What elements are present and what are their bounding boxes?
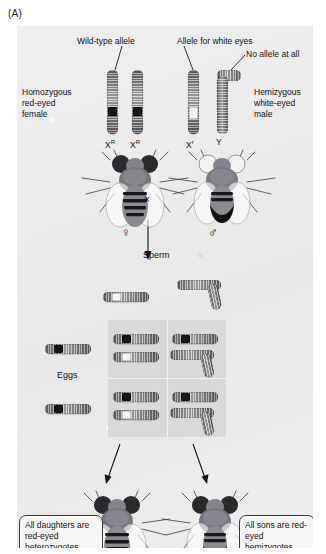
sperm-gamete-y <box>177 280 223 306</box>
genotype-paternal-y: Y <box>216 137 222 148</box>
genotype-superscript: R <box>136 139 140 145</box>
offspring-chromosome-x-white <box>113 410 159 420</box>
wild-type-allele-label: Wild-type allele <box>77 36 135 47</box>
allele-marker-dominant <box>54 345 63 353</box>
offspring-arrows <box>105 444 209 484</box>
allele-marker-dominant <box>122 335 131 343</box>
figure-panel: Wild-type allele Allele for white eyes N… <box>17 26 313 548</box>
maternal-x-chromosome-1 <box>107 70 118 134</box>
genotype-superscript: R <box>111 139 115 145</box>
egg-gamete-x-red-2 <box>45 404 91 414</box>
white-eye-allele-label: Allele for white eyes <box>177 36 253 47</box>
allele-marker-recessive <box>189 107 198 119</box>
eggs-header-label: Eggs <box>57 370 78 380</box>
allele-marker-dominant <box>181 335 190 343</box>
offspring-chromosome-x-red <box>172 392 218 402</box>
genotype-superscript: r <box>192 139 194 145</box>
offspring-chromosome-x-red <box>113 392 159 402</box>
male-parent-label-line2: white-eyed <box>254 98 295 109</box>
genotype-paternal-x: Xr <box>186 137 194 150</box>
sperm-gamete-x-white <box>103 292 149 302</box>
offspring-chromosome-x-red <box>172 334 218 344</box>
panel-label: (A) <box>8 8 22 19</box>
allele-marker-recessive <box>112 293 121 301</box>
female-sex-symbol: ♀ <box>121 226 131 239</box>
daughters-callout: All daughters are red-eyed heterozygotes… <box>19 515 103 548</box>
male-parent-fly <box>167 150 277 228</box>
female-parent-label-line1: Homozygous <box>22 87 72 98</box>
allele-marker-recessive <box>122 411 131 419</box>
offspring-chromosome-x-red <box>113 334 159 344</box>
allele-marker-dominant <box>54 405 63 413</box>
no-allele-label: No allele at all <box>246 49 299 60</box>
allele-marker-dominant <box>133 107 142 116</box>
offspring-chromosome-y <box>170 408 218 434</box>
allele-marker-dominant <box>108 107 117 116</box>
allele-marker-dominant <box>181 393 190 401</box>
sons-callout: All sons are red-eyed hemizygotes. <box>239 515 313 548</box>
figure-root: (A) Wild-type allele Allele f <box>0 0 326 554</box>
cross-symbol: × <box>144 194 150 205</box>
offspring-chromosome-x-white <box>113 352 159 362</box>
allele-marker-recessive <box>122 353 131 361</box>
egg-gamete-x-red-1 <box>45 344 91 354</box>
male-sex-symbol: ♂ <box>208 226 218 239</box>
genotype-maternal-1: XR <box>105 137 115 150</box>
allele-marker-dominant <box>122 393 131 401</box>
male-parent-label-line3: male <box>254 109 272 120</box>
paternal-x-chromosome <box>188 70 199 134</box>
offspring-chromosome-y <box>170 350 218 376</box>
punnett-square-grid <box>108 320 226 437</box>
paternal-y-chromosome <box>217 70 243 134</box>
sperm-header-label: Sperm <box>143 250 170 260</box>
male-parent-label-line1: Hemizygous <box>254 87 301 98</box>
genotype-maternal-2: XR <box>130 137 140 150</box>
female-parent-label-line3: female <box>22 109 48 120</box>
maternal-x-chromosome-2 <box>132 70 143 134</box>
female-parent-label-line2: red-eyed <box>22 98 56 109</box>
